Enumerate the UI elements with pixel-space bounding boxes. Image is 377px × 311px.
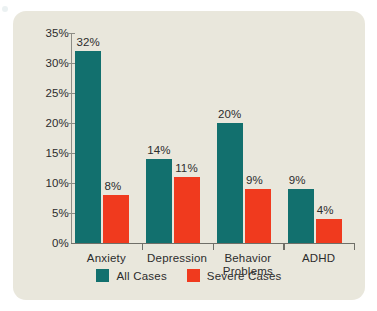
bar: [103, 195, 129, 243]
legend-swatch: [96, 269, 109, 282]
bar-value-label: 11%: [175, 162, 198, 174]
legend-label: All Cases: [116, 270, 166, 282]
bar: [146, 159, 172, 243]
bar: [217, 123, 243, 243]
chart-legend: All CasesSevere Cases: [13, 269, 365, 282]
x-axis-tick: [142, 243, 143, 250]
bar: [245, 189, 271, 243]
bar: [75, 51, 101, 243]
y-axis-tick: [67, 153, 75, 154]
chart-panel: 0%5%10%15%20%25%30%35% 32%8%Anxiety14%11…: [13, 11, 365, 300]
y-axis-tick: [67, 123, 75, 124]
y-axis-tick-label: 0%: [52, 237, 69, 249]
bar-value-label: 4%: [317, 204, 334, 216]
corner-dot-icon: [2, 6, 8, 12]
y-axis-tick-label: 20%: [45, 117, 69, 129]
x-axis-tick: [354, 243, 355, 250]
y-axis-tick-label: 10%: [45, 177, 69, 189]
bar-value-label: 8%: [104, 180, 121, 192]
y-axis-tick: [67, 33, 75, 34]
y-axis-tick-label: 15%: [45, 147, 69, 159]
x-axis-category-label: ADHD: [283, 252, 354, 265]
x-axis-category-label: Anxiety: [71, 252, 142, 265]
y-axis-tick-label: 35%: [45, 27, 69, 39]
bar-chart: 0%5%10%15%20%25%30%35% 32%8%Anxiety14%11…: [13, 11, 365, 300]
bar-value-label: 14%: [147, 144, 171, 156]
y-axis-line: [71, 33, 72, 243]
legend-item: Severe Cases: [187, 269, 282, 282]
y-axis-labels: 0%5%10%15%20%25%30%35%: [27, 11, 69, 300]
y-axis-tick: [67, 93, 75, 94]
x-axis-category-label: Depression: [142, 252, 213, 265]
y-axis-tick-label: 30%: [45, 57, 69, 69]
x-axis-tick: [283, 243, 284, 250]
y-axis-tick-label: 25%: [45, 87, 69, 99]
y-axis-tick: [67, 183, 75, 184]
plot-area: 32%8%Anxiety14%11%Depression20%9%Behavio…: [71, 33, 354, 243]
bar-value-label: 9%: [289, 174, 306, 186]
legend-item: All Cases: [96, 269, 166, 282]
legend-swatch: [187, 269, 200, 282]
bar-value-label: 32%: [76, 36, 100, 48]
bar: [288, 189, 314, 243]
y-axis-tick: [67, 63, 75, 64]
bar: [174, 177, 200, 243]
bar-value-label: 20%: [218, 108, 242, 120]
x-axis-tick: [213, 243, 214, 250]
legend-label: Severe Cases: [207, 270, 282, 282]
bar: [316, 219, 342, 243]
bar-value-label: 9%: [246, 174, 263, 186]
y-axis-tick: [67, 213, 75, 214]
chart-screenshot: 0%5%10%15%20%25%30%35% 32%8%Anxiety14%11…: [0, 0, 377, 311]
